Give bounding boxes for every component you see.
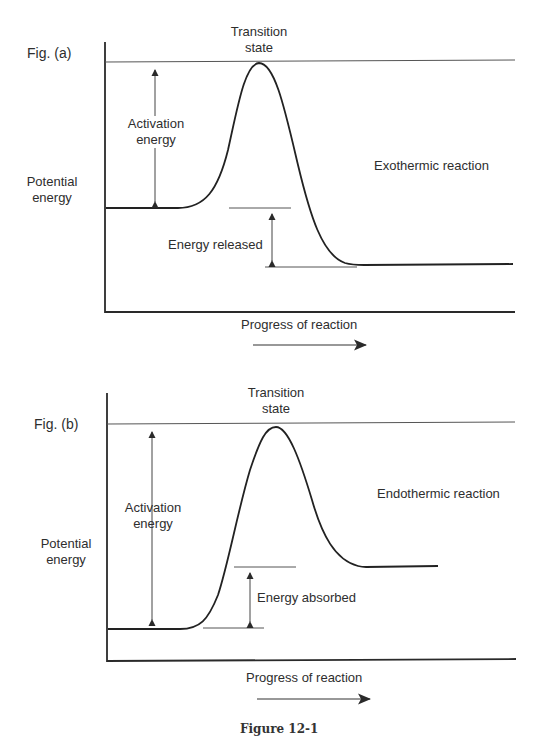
- panel-b-activation-line1: Activation: [120, 500, 186, 516]
- panel-b: [107, 393, 516, 699]
- energy-diagrams: [0, 0, 543, 749]
- panel-b-x-axis: [107, 659, 516, 661]
- figure-caption: Figure 12-1: [240, 722, 318, 736]
- panel-a-transition-line1: Transition: [224, 24, 294, 40]
- panel-b-transition-line1: Transition: [241, 385, 311, 401]
- panel-a: [105, 42, 515, 345]
- panel-b-y-axis-label: Potential energy: [34, 536, 98, 568]
- panel-a-reaction-type: Exothermic reaction: [374, 158, 489, 174]
- panel-a-fig-label: Fig. (a): [27, 45, 71, 61]
- panel-a-y-axis-label: Potential energy: [20, 174, 84, 206]
- panel-a-y-axis-line1: Potential: [20, 174, 84, 190]
- panel-b-activation-line2: energy: [120, 516, 186, 532]
- panel-b-fig-label: Fig. (b): [34, 416, 78, 432]
- panel-b-transition-line: [107, 422, 515, 424]
- panel-b-delta-label: Energy absorbed: [257, 590, 356, 606]
- panel-b-reaction-type: Endothermic reaction: [377, 486, 500, 502]
- panel-a-activation-label: Activation energy: [120, 116, 192, 148]
- panel-a-transition-line2: state: [224, 40, 294, 56]
- panel-b-transition-label: Transition state: [241, 385, 311, 417]
- panel-a-x-axis-label: Progress of reaction: [241, 317, 357, 333]
- panel-b-activation-label: Activation energy: [120, 500, 186, 532]
- panel-b-x-axis-label: Progress of reaction: [246, 670, 362, 686]
- panel-a-y-axis-line2: energy: [20, 190, 84, 206]
- panel-a-delta-label: Energy released: [168, 237, 263, 253]
- panel-a-activation-line1: Activation: [120, 116, 192, 132]
- panel-a-transition-label: Transition state: [224, 24, 294, 56]
- panel-b-transition-line2: state: [241, 401, 311, 417]
- panel-a-activation-line2: energy: [120, 132, 192, 148]
- panel-a-transition-line: [105, 60, 515, 62]
- panel-b-y-axis-line2: energy: [34, 552, 98, 568]
- panel-b-y-axis-line1: Potential: [34, 536, 98, 552]
